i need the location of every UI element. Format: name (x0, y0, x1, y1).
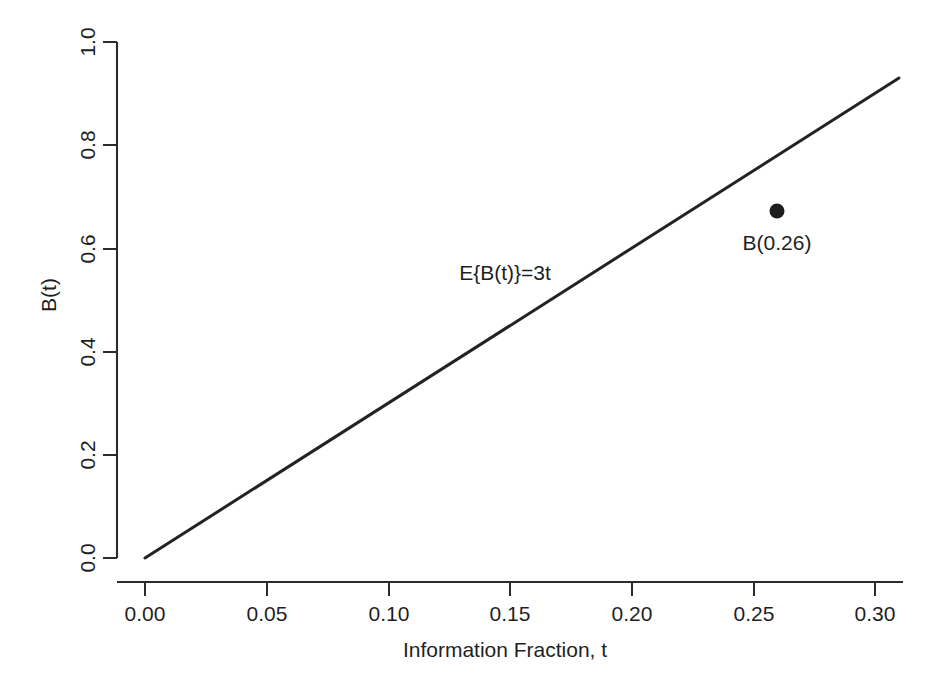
y-tick-label-5: 1.0 (76, 27, 99, 56)
x-tick-label-6: 0.30 (855, 602, 896, 625)
data-point-b026 (770, 204, 785, 219)
chart-figure: 0.0 0.2 0.4 0.6 0.8 1.0 B(t) 0.00 0.05 0… (0, 0, 950, 685)
line-chart: 0.0 0.2 0.4 0.6 0.8 1.0 B(t) 0.00 0.05 0… (0, 0, 950, 685)
expectation-line-series (145, 78, 899, 558)
expectation-annotation-label: E{B(t)}=3t (459, 261, 551, 284)
x-tick-label-0: 0.00 (125, 602, 166, 625)
y-tick-label-2: 0.4 (76, 337, 99, 367)
x-tick-label-1: 0.05 (247, 602, 288, 625)
y-tick-label-3: 0.6 (76, 234, 99, 263)
x-tick-label-2: 0.10 (369, 602, 410, 625)
x-tick-label-5: 0.25 (734, 602, 775, 625)
y-axis-title: B(t) (37, 278, 60, 312)
x-axis-ticks (145, 582, 875, 596)
y-axis-ticks (103, 42, 117, 558)
y-tick-label-0: 0.0 (76, 543, 99, 572)
data-point-annotation-label: B(0.26) (743, 231, 812, 254)
x-tick-label-4: 0.20 (612, 602, 653, 625)
y-axis-tick-labels: 0.0 0.2 0.4 0.6 0.8 1.0 (76, 27, 99, 572)
x-tick-label-3: 0.15 (490, 602, 531, 625)
y-tick-label-4: 0.8 (76, 130, 99, 159)
x-axis-tick-labels: 0.00 0.05 0.10 0.15 0.20 0.25 0.30 (125, 602, 896, 625)
y-tick-label-1: 0.2 (76, 440, 99, 469)
x-axis-title: Information Fraction, t (403, 638, 607, 661)
